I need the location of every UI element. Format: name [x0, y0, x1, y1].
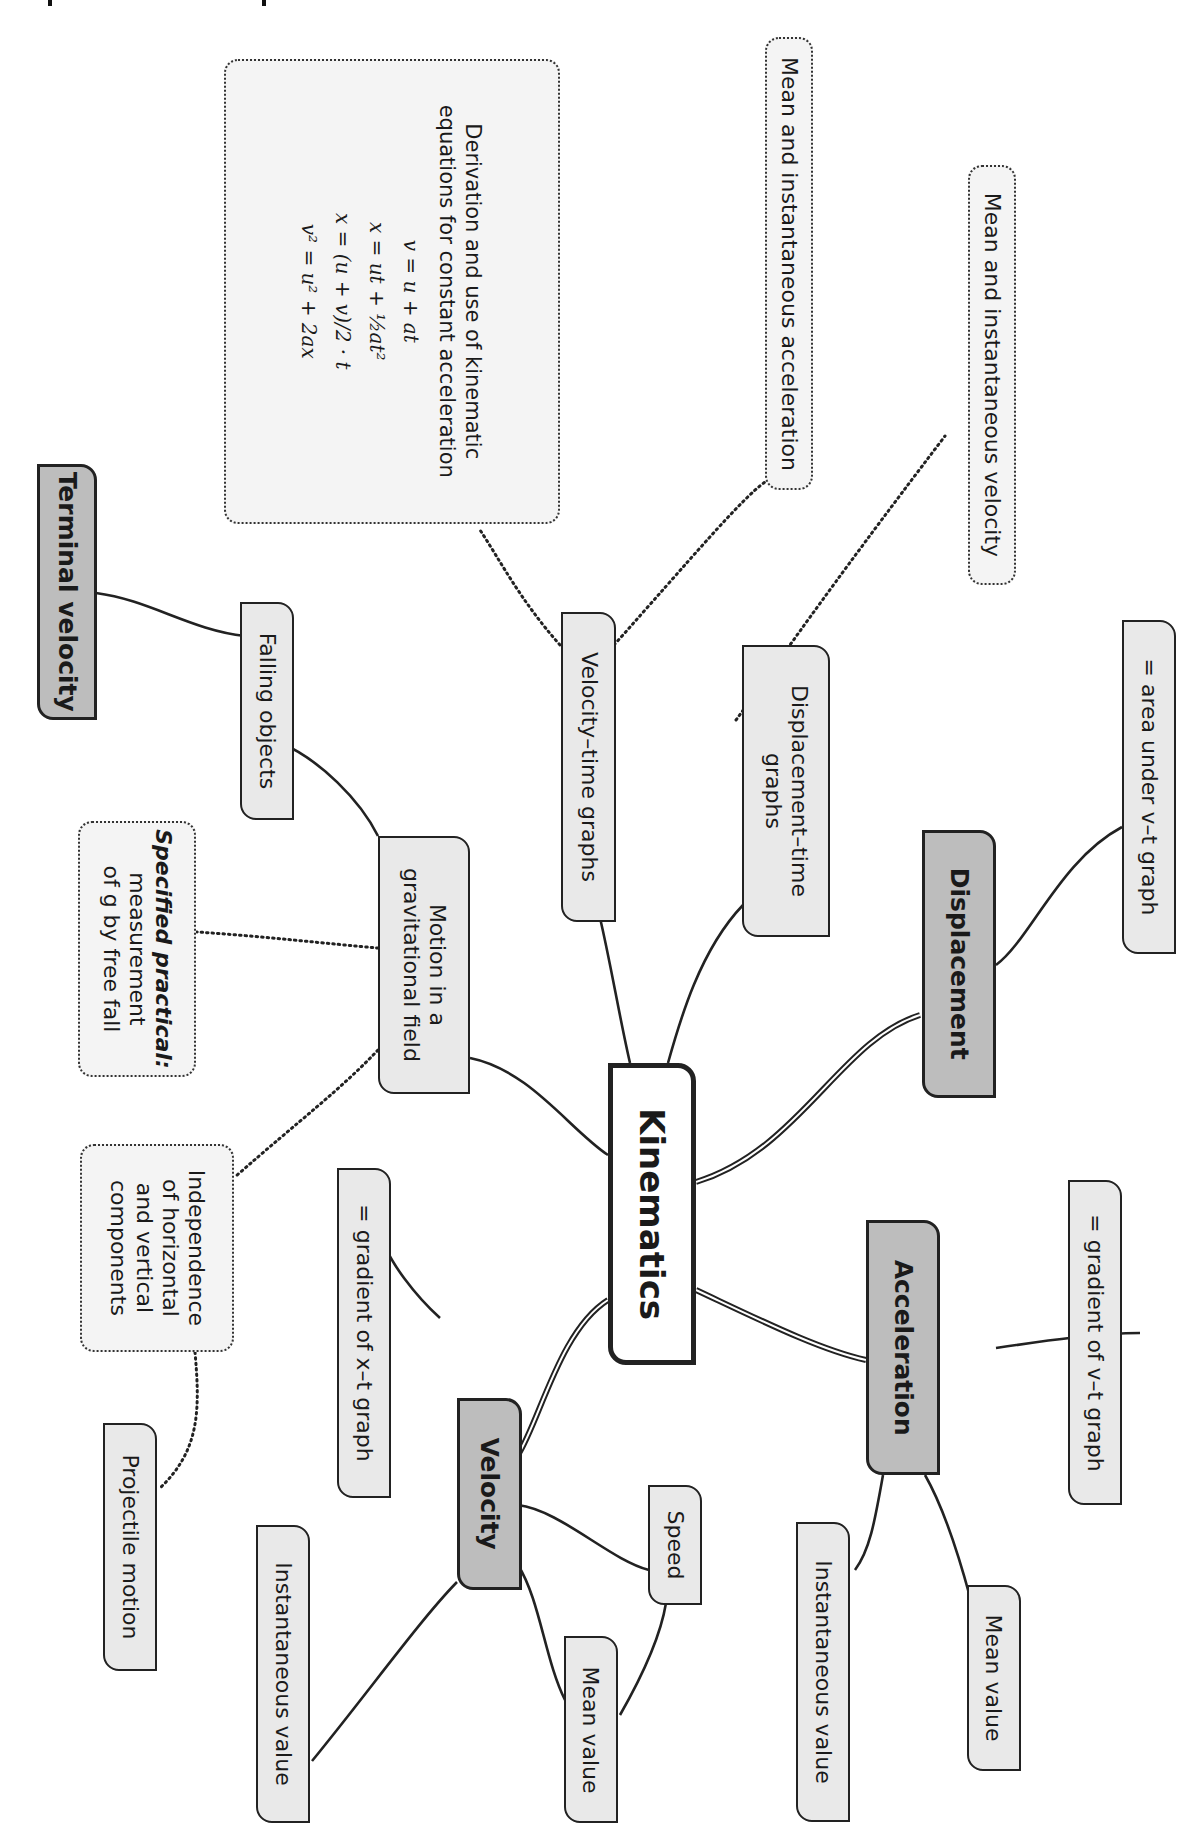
leaf-label: Falling objects: [254, 633, 280, 790]
branch-displacement-label: Displacement: [944, 868, 974, 1060]
leaf-gradient-of-xt-graph[interactable]: = gradient of x–t graph: [337, 1168, 391, 1498]
branch-displacement[interactable]: Displacement: [922, 830, 996, 1098]
leaf-projectile-motion[interactable]: Projectile motion: [103, 1423, 157, 1671]
note-kinematic-equations[interactable]: Derivation and use of kinematic equation…: [224, 59, 560, 524]
leaf-acceleration-mean-value[interactable]: Mean value: [967, 1585, 1021, 1771]
note-mean-instantaneous-velocity[interactable]: Mean and instantaneous velocity: [968, 165, 1016, 585]
equations-title-line: Derivation and use of kinematic: [460, 105, 486, 478]
leaf-label: = gradient of x–t graph: [351, 1204, 377, 1461]
leaf-acceleration-instantaneous-value[interactable]: Instantaneous value: [796, 1522, 850, 1822]
label-line: Displacement–time: [786, 685, 812, 897]
branch-acceleration[interactable]: Acceleration: [866, 1220, 940, 1475]
note-mean-instantaneous-acceleration[interactable]: Mean and instantaneous acceleration: [765, 37, 813, 490]
equations-title-line: equations for constant acceleration: [434, 105, 460, 478]
branch-velocity-time-graphs[interactable]: Velocity–time graphs: [561, 612, 616, 922]
equation-2: x = ut + ½at²: [366, 105, 390, 478]
leaf-label: = area under v–t graph: [1136, 659, 1162, 916]
equation-3: x = (u + v)/2 · t: [332, 105, 356, 478]
note-independence-components[interactable]: Independence of horizontal and vertical …: [80, 1144, 234, 1352]
label-line: Motion in a: [424, 868, 450, 1062]
note-label: Mean and instantaneous acceleration: [776, 57, 802, 471]
root-node-kinematics[interactable]: Kinematics: [608, 1063, 696, 1365]
leaf-velocity-mean-value[interactable]: Mean value: [564, 1636, 618, 1823]
label-line: of g by free fall: [98, 829, 124, 1069]
branch-acceleration-label: Acceleration: [888, 1259, 918, 1435]
leaf-area-under-vt-graph[interactable]: = area under v–t graph: [1122, 620, 1176, 954]
equation-4: v² = u² + 2ax: [298, 105, 322, 478]
leaf-label: Instantaneous value: [810, 1560, 836, 1783]
double-connector-inner: [518, 1015, 920, 1455]
note-label: Independence of horizontal and vertical …: [105, 1170, 209, 1326]
leaf-label: = gradient of v–t graph: [1082, 1214, 1108, 1471]
leaf-label: Mean value: [981, 1614, 1007, 1741]
leaf-gradient-of-vt-graph[interactable]: = gradient of v–t graph: [1068, 1180, 1122, 1505]
label-line: of horizontal: [157, 1170, 183, 1326]
branch-displacement-time-graphs[interactable]: Displacement–time graphs: [742, 645, 830, 937]
leaf-label: Speed: [662, 1511, 688, 1580]
note-label: Specified practical: measurement of g by…: [98, 829, 176, 1069]
branch-velocity[interactable]: Velocity: [457, 1398, 522, 1590]
branch-velocity-label: Velocity: [475, 1438, 505, 1550]
leaf-label: Mean value: [578, 1666, 604, 1793]
leaf-falling-objects[interactable]: Falling objects: [240, 602, 294, 820]
branch-motion-gravitational-field-label: Motion in a gravitational field: [398, 868, 450, 1062]
label-line: components: [105, 1170, 131, 1326]
double-connector: [518, 1015, 920, 1455]
note-label: Mean and instantaneous velocity: [979, 193, 1005, 557]
label-line: graphs: [760, 685, 786, 897]
label-line: gravitational field: [398, 868, 424, 1062]
leaf-label: Terminal velocity: [52, 472, 82, 712]
leaf-label: Instantaneous value: [270, 1562, 296, 1785]
note-specified-practical[interactable]: Specified practical: measurement of g by…: [78, 821, 196, 1077]
root-label: Kinematics: [632, 1108, 672, 1320]
leaf-velocity-instantaneous-value[interactable]: Instantaneous value: [256, 1525, 310, 1823]
branch-displacement-time-graphs-label: Displacement–time graphs: [760, 685, 812, 897]
label-line: and vertical: [131, 1170, 157, 1326]
leaf-terminal-velocity[interactable]: Terminal velocity: [37, 464, 97, 720]
label-line: Independence: [183, 1170, 209, 1326]
branch-velocity-time-graphs-label: Velocity–time graphs: [576, 652, 602, 882]
leaf-speed[interactable]: Speed: [648, 1485, 702, 1605]
equation-1: v = u + at: [400, 105, 424, 478]
branch-motion-gravitational-field[interactable]: Motion in a gravitational field: [378, 836, 470, 1094]
leaf-label: Projectile motion: [117, 1454, 143, 1639]
practical-emphasis: Specified practical:: [150, 829, 176, 1069]
label-line: measurement: [124, 829, 150, 1069]
kinematic-equations-block: Derivation and use of kinematic equation…: [298, 105, 487, 478]
